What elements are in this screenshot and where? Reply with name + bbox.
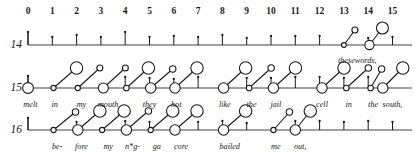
- beat-tick-dot-2: [75, 34, 77, 36]
- beat-tick-dot-13: [343, 121, 345, 123]
- beat-tick-dot-8: [221, 34, 223, 36]
- beat-number-3: 3: [99, 7, 104, 17]
- note-onset-2: [75, 85, 80, 90]
- lyric-16-8: out,: [294, 143, 307, 151]
- beat-tick-dot-0: [27, 31, 29, 33]
- note-onset-4: [148, 127, 153, 132]
- beat-tick-dot-5: [148, 36, 150, 38]
- beat-tick-dot-11: [294, 120, 296, 122]
- lyric-15-3: mouth: [98, 101, 118, 109]
- note-head-0: [352, 27, 358, 33]
- notation-row-16: [27, 105, 412, 135]
- beat-number-6: 6: [171, 7, 176, 17]
- beat-number-13: 13: [339, 7, 349, 17]
- note-onset-2: [100, 127, 105, 132]
- beat-tick-dot-12: [318, 120, 320, 122]
- beat-tick-dot-0: [27, 117, 29, 119]
- beat-number-14: 14: [363, 7, 373, 17]
- note-onset-1: [73, 125, 83, 135]
- note-onset-12: [368, 85, 374, 91]
- lyric-15-5: hot: [171, 101, 181, 109]
- note-stem-8: [249, 68, 271, 88]
- note-head-5: [191, 105, 203, 117]
- lyric-15-11: the: [368, 101, 378, 109]
- lyric-15-0: melt: [23, 101, 37, 109]
- note-onset-6: [170, 83, 180, 93]
- lyric-15-8: jail: [270, 101, 281, 109]
- note-onset-6: [218, 125, 228, 135]
- note-onset-3: [121, 125, 131, 135]
- beat-tick-dot-9: [246, 77, 248, 79]
- note-head-6: [191, 62, 203, 74]
- beat-tick-dot-14: [367, 120, 369, 122]
- note-onset-7: [218, 83, 228, 93]
- note-stem-0: [54, 112, 76, 130]
- beat-tick-dot-4: [124, 120, 126, 122]
- note-onset-10: [317, 83, 327, 93]
- note-onset-9: [268, 83, 278, 93]
- note-head-2: [97, 65, 103, 71]
- beat-number-15: 15: [388, 7, 398, 17]
- beat-tick-dot-15: [391, 121, 393, 123]
- note-head-13: [397, 62, 409, 74]
- beat-tick-dot-2: [75, 121, 77, 123]
- beat-tick-dot-6: [173, 78, 175, 80]
- beat-number-10: 10: [266, 7, 276, 17]
- note-head-1: [376, 22, 388, 34]
- note-onset-7: [271, 127, 276, 132]
- notation-row-14: [27, 22, 412, 50]
- note-head-12: [378, 66, 384, 72]
- row-label-15: 15: [11, 82, 23, 94]
- beat-tick-dot-7: [197, 36, 199, 38]
- beat-tick-dot-1: [51, 36, 53, 38]
- beat-number-1: 1: [50, 7, 55, 17]
- beat-tick-dot-10: [270, 35, 272, 37]
- note-head-7: [286, 109, 292, 115]
- beat-number-2: 2: [74, 7, 79, 17]
- beat-tick-dot-4: [124, 31, 126, 33]
- beat-tick-dot-11: [294, 35, 296, 37]
- note-head-0: [72, 109, 78, 115]
- lyric-15-1: in: [52, 101, 58, 109]
- lyric-14-0: thesewords,: [338, 57, 377, 65]
- note-onset-13: [378, 83, 388, 93]
- note-onset-3: [98, 83, 108, 93]
- lyric-15-10: in: [346, 101, 352, 109]
- note-onset-8: [246, 85, 252, 91]
- beat-tick-dot-15: [391, 36, 393, 38]
- lyric-16-6: bailed: [219, 143, 239, 151]
- note-onset-1: [365, 40, 374, 49]
- lyric-15-12: south,: [383, 101, 403, 109]
- beat-number-5: 5: [147, 7, 152, 17]
- note-head-1: [70, 62, 82, 74]
- lyric-16-5: core: [174, 143, 188, 151]
- beat-tick-dot-9: [246, 37, 248, 39]
- lyric-16-3: n*g-: [125, 143, 140, 151]
- notation-canvas: [0, 0, 416, 153]
- beat-tick-dot-10: [270, 77, 272, 79]
- note-onset-11: [344, 85, 350, 91]
- note-head-7: [239, 62, 251, 74]
- beat-tick-dot-0: [27, 75, 29, 77]
- lyric-16-7: me: [271, 143, 281, 151]
- beat-number-12: 12: [315, 7, 325, 17]
- beat-tick-dot-14: [367, 76, 369, 78]
- beat-tick-dot-9: [246, 122, 248, 124]
- row-label-16: 16: [11, 124, 23, 136]
- note-head-2: [118, 105, 130, 117]
- row-label-14: 14: [11, 39, 23, 51]
- lyric-16-0: be-: [52, 143, 62, 151]
- beat-tick-dot-6: [173, 35, 175, 37]
- beat-number-11: 11: [291, 7, 300, 17]
- lyric-15-7: the: [247, 101, 257, 109]
- lyric-15-4: they: [143, 101, 157, 109]
- lyric-16-1: fore: [75, 143, 88, 151]
- beat-tick-dot-14: [367, 37, 369, 39]
- lyric-15-6: like: [219, 101, 231, 109]
- beat-number-7: 7: [196, 7, 201, 17]
- beat-number-4: 4: [123, 7, 128, 17]
- beat-tick-dot-13: [343, 77, 345, 79]
- note-head-8: [304, 105, 316, 117]
- beat-tick-dot-7: [197, 76, 199, 78]
- notation-row-15: [23, 62, 412, 94]
